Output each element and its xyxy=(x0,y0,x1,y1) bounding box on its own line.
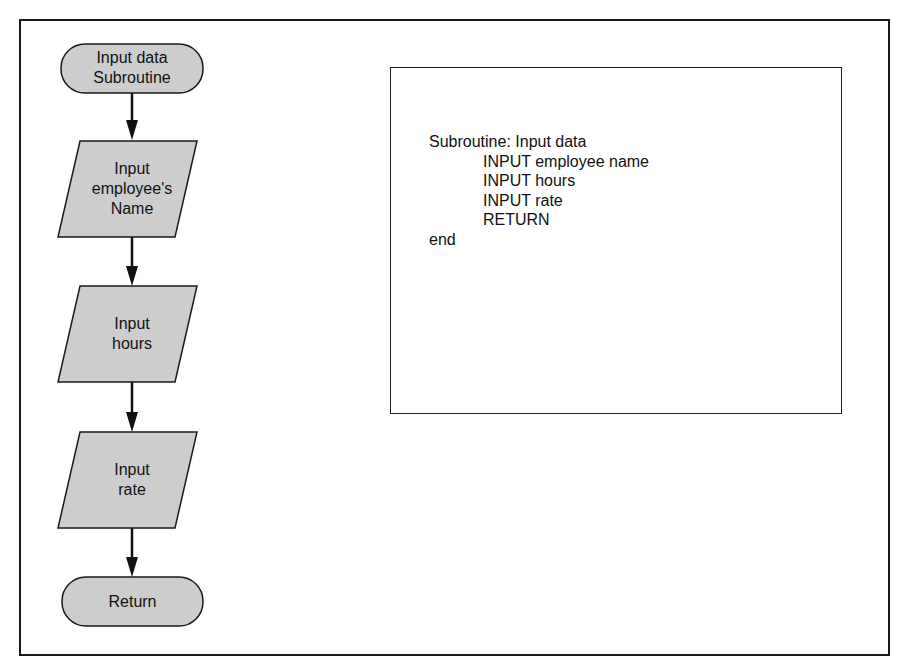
arrowhead-icon xyxy=(126,120,138,140)
input-name-label: Input employee's Name xyxy=(68,159,196,219)
pseudocode-line: Subroutine: Input data xyxy=(429,132,649,152)
pseudocode-line: RETURN xyxy=(429,210,649,230)
pseudocode-box: Subroutine: Input data INPUT employee na… xyxy=(390,67,842,414)
input-hours-label: Input hours xyxy=(68,314,196,354)
input-rate-label: Input rate xyxy=(68,460,196,500)
arrowhead-icon xyxy=(126,266,138,286)
arrowhead-icon xyxy=(126,557,138,577)
pseudocode-line: end xyxy=(429,230,649,250)
pseudocode-line: INPUT rate xyxy=(429,191,649,211)
pseudocode-lines: Subroutine: Input data INPUT employee na… xyxy=(429,132,649,249)
arrowhead-icon xyxy=(126,412,138,432)
pseudocode-line: INPUT employee name xyxy=(429,152,649,172)
pseudocode-line: INPUT hours xyxy=(429,171,649,191)
start-terminal-label: Input data Subroutine xyxy=(61,48,203,88)
return-terminal-label: Return xyxy=(62,592,203,612)
